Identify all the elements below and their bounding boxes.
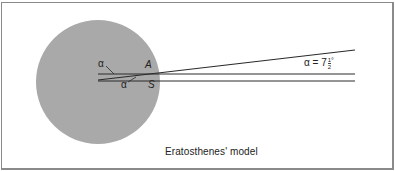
alpha-top-label: α <box>98 58 104 69</box>
point-a-label: A <box>145 59 152 70</box>
angle-eq-prefix: α = 7 <box>304 57 327 68</box>
point-s-label: S <box>148 79 155 90</box>
diagram-caption: Eratosthenes' model <box>165 146 258 157</box>
angle-unit: ° <box>331 57 334 64</box>
angle-frac-den: 2 <box>328 64 331 70</box>
alpha-bottom-label: α <box>121 79 127 90</box>
earth-circle <box>36 20 160 144</box>
angle-equation: α = 712° <box>304 57 334 70</box>
